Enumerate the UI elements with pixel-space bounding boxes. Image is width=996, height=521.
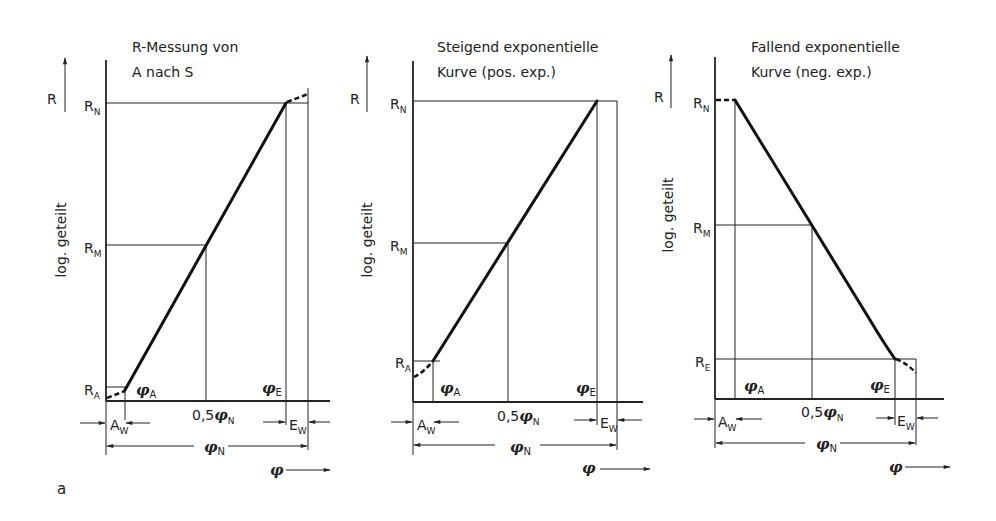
panel-title-line1: Steigend exponentielle	[437, 39, 598, 55]
x-axis-symbol: φ	[582, 459, 596, 477]
y-axis-scale-label: log. geteilt	[359, 202, 375, 278]
figure-label: a	[57, 480, 66, 498]
label-half-phi-n: 0,5φN	[192, 406, 235, 426]
svg-text:RA: RA	[395, 355, 412, 374]
characteristic-curve	[735, 100, 895, 359]
potentiometer-characteristic-diagram: R-Messung von A nach S R log. geteilt RN…	[0, 0, 996, 521]
y-axis-scale-label: log. geteilt	[660, 177, 676, 253]
label-phi-e: φE	[262, 379, 282, 398]
panel-title-line1: Fallend exponentielle	[751, 39, 900, 55]
label-phi-a: φA	[136, 381, 157, 400]
svg-text:φA: φA	[744, 377, 765, 396]
label-phi-n: φN	[204, 438, 225, 457]
svg-text:φE: φE	[576, 379, 596, 398]
label-ra: RA	[84, 382, 101, 401]
svg-text:φN: φN	[816, 435, 837, 454]
svg-text:EW: EW	[897, 413, 915, 432]
svg-text:φN: φN	[510, 438, 531, 457]
label-rn: RN	[84, 98, 100, 117]
panel-steigend-exponentiell: Steigend exponentielle Kurve (pos. exp.)…	[350, 39, 650, 477]
svg-text:RM: RM	[693, 220, 711, 239]
characteristic-curve	[433, 101, 597, 361]
x-axis-symbol: φ	[889, 458, 903, 476]
y-axis-scale-label: log. geteilt	[53, 202, 69, 278]
panel-title-line2: Kurve (pos. exp.)	[437, 64, 556, 80]
svg-text:0,5φN: 0,5φN	[801, 403, 844, 423]
svg-text:AW: AW	[417, 417, 436, 436]
svg-text:RN: RN	[693, 95, 709, 114]
y-axis-symbol: R	[350, 91, 360, 107]
y-axis-symbol: R	[47, 91, 57, 107]
svg-text:EW: EW	[600, 415, 618, 434]
label-rm: RM	[84, 240, 102, 259]
svg-text:AW: AW	[718, 414, 737, 433]
label-aw: AW	[110, 417, 129, 436]
label-ew: EW	[289, 417, 307, 436]
panel-title-line1: R-Messung von	[132, 39, 238, 55]
svg-text:φE: φE	[870, 376, 890, 395]
x-axis-symbol: φ	[270, 461, 284, 479]
panel-r-messung: R-Messung von A nach S R log. geteilt RN…	[47, 39, 330, 479]
svg-text:RN: RN	[390, 96, 406, 115]
svg-text:RE: RE	[695, 354, 711, 373]
svg-text:0,5φN: 0,5φN	[497, 407, 540, 427]
panel-title-line2: A nach S	[132, 64, 194, 80]
y-axis-symbol: R	[654, 89, 664, 105]
panel-title-line2: Kurve (neg. exp.)	[751, 64, 872, 80]
svg-text:RM: RM	[390, 238, 408, 257]
panel-fallend-exponentiell: Fallend exponentielle Kurve (neg. exp.) …	[654, 39, 950, 476]
svg-text:φA: φA	[440, 379, 461, 398]
